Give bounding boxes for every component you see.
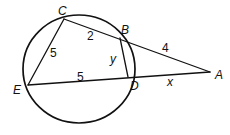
measure-DA: x [166,75,174,89]
measure-CB: 2 [87,29,94,43]
circle [23,15,135,123]
segment-BD [120,38,128,77]
point-label-D: D [130,79,139,93]
measure-BA: 4 [162,41,169,55]
measure-CE: 5 [50,46,57,60]
segment-EA [28,72,210,85]
segment-CA [64,19,210,72]
point-label-B: B [121,23,129,37]
point-label-A: A [214,68,223,82]
geometry-diagram: A B C D E 5 2 4 y 5 x [0,0,230,135]
point-label-C: C [58,4,67,18]
measure-ED: 5 [77,70,84,84]
measure-BD: y [109,52,117,66]
segment-CE [28,19,64,85]
point-label-E: E [13,83,22,97]
